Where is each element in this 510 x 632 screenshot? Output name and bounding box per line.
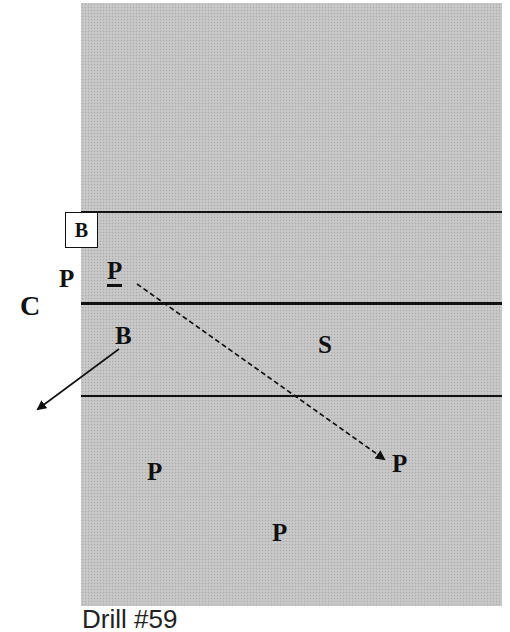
drill-caption: Drill #59	[82, 606, 177, 632]
dashed-pass-arrow	[137, 284, 384, 459]
solid-move-arrow	[38, 349, 119, 409]
